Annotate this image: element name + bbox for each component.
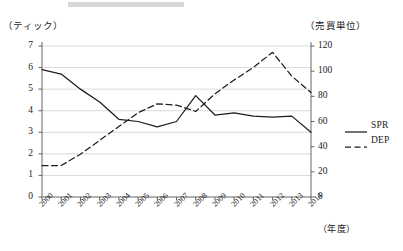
y-tick-label-left: 2 (17, 149, 33, 158)
legend-swatch-solid-icon (345, 125, 367, 126)
legend-item-dep: DEP (345, 133, 390, 148)
y-tick-label-left: 4 (17, 106, 33, 115)
y-tick-label-right: 40 (318, 142, 340, 151)
legend-item-spr: SPR (345, 118, 390, 133)
y-tick-label-left: 1 (17, 170, 33, 179)
y-tick-label-left: 5 (17, 84, 33, 93)
y-tick-label-right: 20 (318, 167, 340, 176)
y-tick-label-right: 120 (318, 41, 340, 50)
y-tick-label-left: 3 (17, 127, 33, 136)
y-tick-label-left: 6 (17, 63, 33, 72)
line-chart (0, 0, 403, 251)
legend-label: SPR (371, 118, 389, 133)
y-tick-label-right: 80 (318, 91, 340, 100)
y-tick-label-right: 60 (318, 117, 340, 126)
legend-swatch-dashed-icon (345, 140, 367, 141)
series-line-spr (42, 70, 311, 133)
y-tick-label-right: 100 (318, 66, 340, 75)
y-tick-label-left: 0 (17, 192, 33, 201)
legend-label: DEP (371, 133, 390, 148)
y-tick-label-left: 7 (17, 41, 33, 50)
chart-legend: SPRDEP (345, 118, 390, 148)
series-line-dep (42, 52, 311, 165)
